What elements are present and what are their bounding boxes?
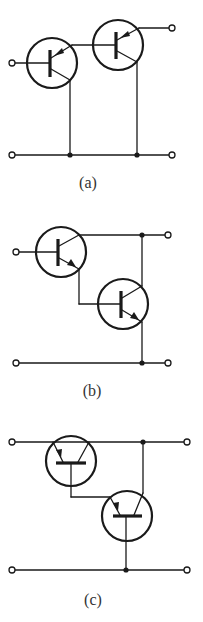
transistor-a1-pnp [15, 38, 77, 155]
emitter-arrow-icon [54, 48, 64, 56]
panel-c: (c) [9, 436, 190, 609]
transistor-c1 [46, 436, 96, 497]
terminal-b-bottom-left [13, 360, 19, 366]
junction-dot [123, 567, 128, 572]
circuit-diagram: (a) [0, 0, 203, 622]
terminal-a-ground-left [9, 152, 15, 158]
panel-label-b: (b) [83, 382, 102, 400]
junction-dot [139, 360, 144, 365]
panel-a: (a) [9, 20, 175, 192]
junction-dot [140, 439, 145, 444]
panel-label-c: (c) [84, 591, 102, 609]
terminal-a-output [169, 25, 175, 31]
terminal-c-top-right [184, 439, 190, 445]
terminal-c-bottom-right [184, 567, 190, 573]
terminal-b-top-right [165, 232, 171, 238]
emitter-arrow-icon [130, 312, 139, 320]
emitter-arrow-icon [120, 31, 130, 38]
terminal-b-input [13, 249, 19, 255]
terminal-c-top-left [9, 439, 15, 445]
emitter-arrow-icon [113, 502, 119, 511]
transistor-c2 [102, 491, 152, 570]
transistor-a2-pnp [93, 20, 143, 155]
terminal-c-bottom-left [9, 567, 15, 573]
junction-dot [139, 232, 144, 237]
panel-label-a: (a) [79, 174, 97, 192]
terminal-b-bottom-right [165, 360, 171, 366]
terminal-a-input [9, 60, 15, 66]
terminal-a-ground-right [169, 152, 175, 158]
emitter-arrow-icon [67, 259, 76, 267]
emitter-arrow-icon [56, 449, 62, 458]
panel-b: (b) [13, 227, 171, 400]
junction-dot [134, 152, 139, 157]
transistor-b1-npn [19, 227, 86, 304]
junction-dot [67, 152, 72, 157]
